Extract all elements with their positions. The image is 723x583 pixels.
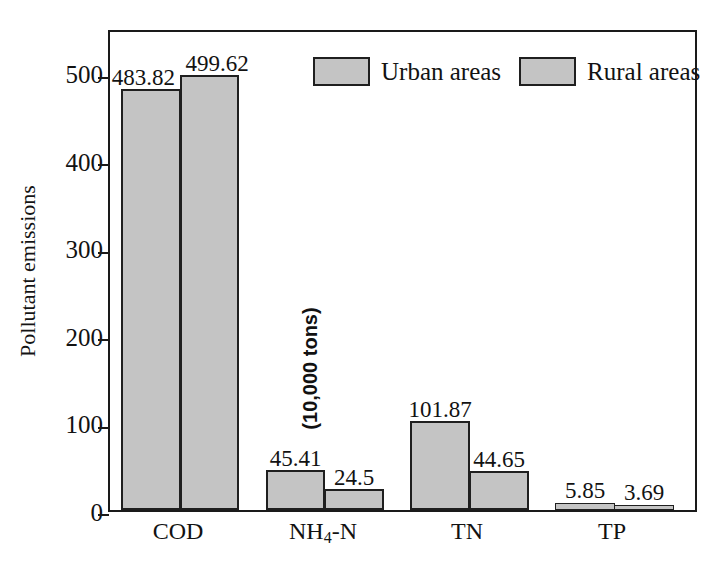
y-tick-mark bbox=[98, 77, 109, 79]
bar-value-label: 499.62 bbox=[185, 52, 248, 76]
bar-tn-urban: 101.87 bbox=[410, 421, 470, 510]
y-tick-mark bbox=[98, 252, 109, 254]
bar-value-label: 3.69 bbox=[624, 481, 664, 505]
bar-nh4n-urban: 45.41 bbox=[266, 470, 325, 510]
bar-value-label: 45.41 bbox=[270, 447, 322, 471]
x-tick-label-tn: TN bbox=[451, 518, 483, 545]
legend: Urban areas Rural areas bbox=[313, 57, 700, 86]
y-tick-label: 0 bbox=[8, 500, 103, 525]
y-tick-label-group: 500 400 300 200 100 0 bbox=[0, 0, 103, 583]
plot-area: 483.82 499.62 45.41 24.5 101.87 44.65 5.… bbox=[108, 30, 697, 512]
y-tick-label: 500 bbox=[8, 62, 103, 87]
legend-label: Rural areas bbox=[587, 59, 700, 84]
bar-nh4n-rural: 24.5 bbox=[324, 489, 384, 510]
x-tick-label-tp: TP bbox=[598, 518, 626, 545]
bar-tp-rural: 3.69 bbox=[614, 505, 674, 510]
bar-tp-urban: 5.85 bbox=[555, 503, 615, 510]
y-tick-label: 400 bbox=[8, 150, 103, 175]
bar-cod-urban: 483.82 bbox=[121, 89, 181, 510]
legend-swatch-icon bbox=[519, 57, 576, 86]
legend-swatch-icon bbox=[313, 57, 370, 86]
x-tick-label-cod: COD bbox=[153, 518, 204, 545]
y-tick-label: 300 bbox=[8, 237, 103, 262]
y-tick-mark bbox=[98, 427, 109, 429]
y-tick-label: 200 bbox=[8, 325, 103, 350]
legend-entry-urban: Urban areas bbox=[313, 57, 501, 86]
y-tick-mark bbox=[98, 514, 109, 516]
bar-value-label: 24.5 bbox=[334, 466, 374, 490]
bar-tn-rural: 44.65 bbox=[469, 471, 529, 510]
legend-entry-rural: Rural areas bbox=[519, 57, 700, 86]
bar-value-label: 101.87 bbox=[408, 398, 471, 422]
bar-cod-rural: 499.62 bbox=[180, 75, 239, 510]
units-annotation: (10,000 tons) bbox=[299, 307, 322, 429]
y-tick-label: 100 bbox=[8, 412, 103, 437]
bar-value-label: 44.65 bbox=[473, 448, 525, 472]
y-tick-mark bbox=[98, 339, 109, 341]
legend-label: Urban areas bbox=[381, 59, 501, 84]
x-tick-label-nh4n: NH4-N bbox=[289, 518, 357, 547]
bar-value-label: 483.82 bbox=[112, 66, 175, 90]
bar-chart: Pollutant emissions 500 400 300 200 100 … bbox=[0, 0, 723, 583]
y-tick-mark bbox=[98, 164, 109, 166]
bar-value-label: 5.85 bbox=[565, 479, 605, 503]
